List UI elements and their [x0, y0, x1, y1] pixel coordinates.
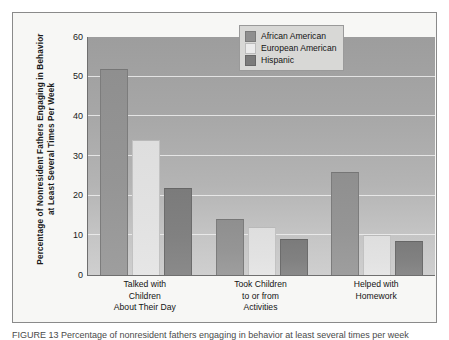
bar: [100, 69, 128, 275]
x-axis-label-line: to or from: [203, 291, 319, 303]
bar: [363, 235, 391, 275]
chart-legend: African AmericanEuropean AmericanHispani…: [239, 25, 344, 71]
y-axis-tick-label: 50: [61, 72, 83, 81]
y-axis-tick-labels: 0102030405060: [59, 37, 83, 275]
x-axis-label-line: Homework: [318, 291, 434, 303]
plot-area: [87, 37, 435, 276]
x-axis-label-line: About Their Day: [87, 302, 203, 314]
bar-group: [216, 37, 308, 275]
y-axis-tick-label: 40: [61, 112, 83, 121]
legend-label: African American: [261, 31, 326, 41]
x-axis-category-labels: Talked withChildrenAbout Their DayTook C…: [87, 279, 434, 323]
y-axis-tick-label: 30: [61, 152, 83, 161]
legend-item: Hispanic: [245, 54, 336, 66]
y-axis-title: Percentage of Nonresident Fathers Engagi…: [32, 30, 60, 268]
bar-group: [331, 37, 423, 275]
bar: [164, 188, 192, 275]
x-axis-label-line: Talked with: [87, 279, 203, 291]
legend-item: European American: [245, 42, 336, 54]
x-axis-category-label: Helped withHomework: [318, 279, 434, 302]
x-axis-label-line: Children: [87, 291, 203, 303]
legend-swatch-icon: [245, 55, 256, 66]
figure-caption: FIGURE 13 Percentage of nonresident fath…: [12, 330, 437, 340]
legend-label: Hispanic: [261, 55, 294, 65]
bar: [132, 140, 160, 275]
x-axis-label-line: Activities: [203, 302, 319, 314]
x-axis-category-label: Talked withChildrenAbout Their Day: [87, 279, 203, 314]
bar-group: [100, 37, 192, 275]
figure-frame: Percentage of Nonresident Fathers Engagi…: [12, 12, 437, 323]
legend-item: African American: [245, 30, 336, 42]
legend-label: European American: [261, 43, 336, 53]
x-axis-label-line: Took Children: [203, 279, 319, 291]
x-axis-label-line: Helped with: [318, 279, 434, 291]
legend-swatch-icon: [245, 31, 256, 42]
y-axis-tick-label: 60: [61, 33, 83, 42]
bar: [395, 241, 423, 275]
y-axis-tick-label: 10: [61, 231, 83, 240]
x-axis-category-label: Took Childrento or fromActivities: [203, 279, 319, 314]
legend-swatch-icon: [245, 43, 256, 54]
bar: [280, 239, 308, 275]
bar: [331, 172, 359, 275]
figure-root: Percentage of Nonresident Fathers Engagi…: [0, 0, 449, 340]
y-axis-tick-label: 20: [61, 191, 83, 200]
y-axis-tick-label: 0: [61, 271, 83, 280]
bar: [248, 227, 276, 275]
bar: [216, 219, 244, 275]
